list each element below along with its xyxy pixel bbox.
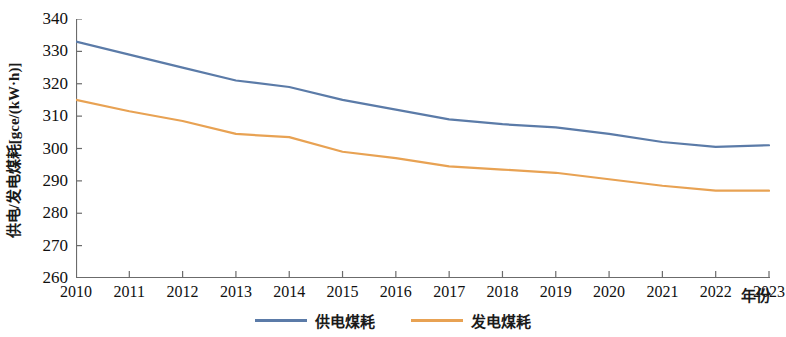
x-tick-label-2015: 2015	[327, 283, 359, 301]
legend-swatch-icon	[255, 319, 307, 322]
legend-item: 发电煤耗	[411, 310, 531, 331]
x-tick-label-2018: 2018	[486, 283, 518, 301]
x-tick-label-2017: 2017	[433, 283, 465, 301]
x-tick-label-2012: 2012	[167, 283, 199, 301]
chart-figure: 供电/发电煤耗[gce/(kW·h)] 26027028029030031032…	[0, 0, 786, 337]
chart-legend: 供电煤耗发电煤耗	[0, 310, 786, 331]
x-tick-label-2022: 2022	[700, 283, 732, 301]
x-axis-title: 年份	[741, 284, 771, 305]
legend-item: 供电煤耗	[255, 310, 375, 331]
x-tick-label-2020: 2020	[593, 283, 625, 301]
x-axis-tick-labels: 2010201120122013201420152016201720182019…	[0, 0, 786, 337]
x-tick-label-2011: 2011	[114, 283, 145, 301]
x-axis-title-text: 年份	[741, 288, 771, 304]
x-tick-label-2021: 2021	[646, 283, 678, 301]
x-tick-label-2010: 2010	[60, 283, 92, 301]
x-tick-label-2016: 2016	[380, 283, 412, 301]
x-tick-label-2013: 2013	[220, 283, 252, 301]
legend-label: 发电煤耗	[471, 310, 531, 331]
legend-label: 供电煤耗	[315, 310, 375, 331]
x-tick-label-2019: 2019	[540, 283, 572, 301]
legend-swatch-icon	[411, 319, 463, 322]
x-tick-label-2014: 2014	[273, 283, 305, 301]
